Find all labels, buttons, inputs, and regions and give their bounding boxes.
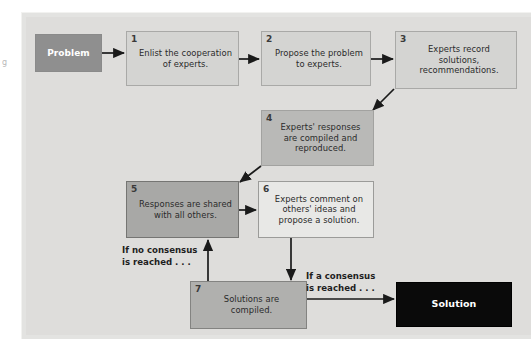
- node-step3-label: Experts record solutions, recommendation…: [396, 44, 516, 76]
- node-step7-label: Solutions are compiled.: [191, 294, 306, 315]
- node-problem-label: Problem: [47, 48, 90, 59]
- node-step1-label: Enlist the cooperation of experts.: [127, 48, 238, 69]
- node-step7-number: 7: [195, 284, 201, 294]
- node-step2-number: 2: [266, 34, 272, 44]
- node-step2[interactable]: 2 Propose the problem to experts.: [261, 31, 371, 86]
- node-step6-label: Experts comment on others' ideas and pro…: [259, 194, 373, 226]
- node-step1-number: 1: [131, 34, 137, 44]
- node-step5-label: Responses are shared with all others.: [127, 199, 238, 220]
- edge-label-a-consensus: If a consensus is reached . . .: [306, 271, 375, 294]
- node-step6-number: 6: [263, 184, 269, 194]
- node-step1[interactable]: 1 Enlist the cooperation of experts.: [126, 31, 239, 86]
- node-step3-number: 3: [400, 34, 406, 44]
- node-step7[interactable]: 7 Solutions are compiled.: [190, 281, 307, 329]
- node-step4-number: 4: [266, 113, 272, 123]
- node-problem[interactable]: Problem: [35, 34, 102, 72]
- edge-label-a-consensus-line1: If a consensus: [306, 271, 375, 283]
- node-step5[interactable]: 5 Responses are shared with all others.: [126, 181, 239, 238]
- edge-label-no-consensus-line1: If no consensus: [122, 245, 197, 257]
- node-solution-label: Solution: [432, 299, 477, 310]
- margin-text-artifact: g: [2, 58, 9, 67]
- edge-label-no-consensus: If no consensus is reached . . .: [122, 245, 197, 268]
- node-step3[interactable]: 3 Experts record solutions, recommendati…: [395, 31, 517, 89]
- edge-label-a-consensus-line2: is reached . . .: [306, 283, 375, 295]
- node-step2-label: Propose the problem to experts.: [262, 48, 370, 69]
- diagram-root: g Problem 1 Enlist the cooperati: [0, 0, 531, 349]
- edge-label-no-consensus-line2: is reached . . .: [122, 257, 197, 269]
- node-step6[interactable]: 6 Experts comment on others' ideas and p…: [258, 181, 374, 238]
- node-step4[interactable]: 4 Experts' responses are compiled and re…: [261, 110, 374, 166]
- node-step5-number: 5: [131, 184, 137, 194]
- node-solution[interactable]: Solution: [396, 282, 512, 327]
- node-step4-label: Experts' responses are compiled and repr…: [262, 122, 373, 154]
